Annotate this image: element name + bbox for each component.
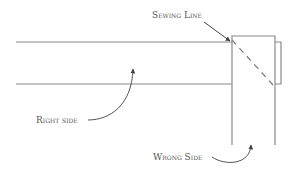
- wrong-side-label: Wrong Side: [153, 152, 202, 162]
- sewing-line-label: Sewing Line: [152, 10, 202, 20]
- wrong-side-panel: [232, 36, 275, 145]
- right-side-label: Right side: [36, 115, 78, 125]
- wrong-side-arrow: [212, 145, 251, 162]
- wrong-side-tab: [275, 42, 281, 84]
- sewing-line-dashed: [232, 40, 273, 85]
- right-side-arrow: [88, 69, 133, 120]
- sewing-line-arrow: [204, 22, 230, 41]
- seam-diagram: Sewing Line Right side Wrong Side: [0, 0, 299, 176]
